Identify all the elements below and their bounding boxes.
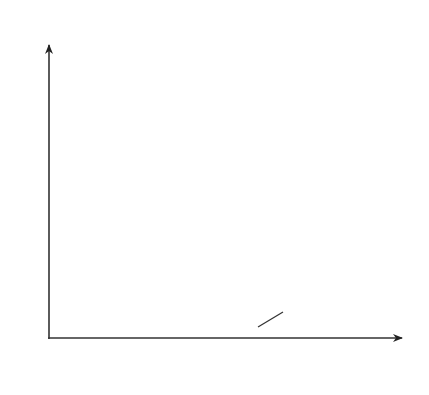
chart-canvas [0, 0, 429, 395]
k-1-3-leader-line [258, 312, 283, 327]
